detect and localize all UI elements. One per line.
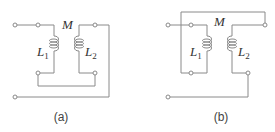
diagram-b: M L1 L2 (b)	[166, 12, 267, 124]
terminal-b-4	[189, 71, 193, 75]
terminal-b-2	[189, 23, 193, 27]
wire-b-l1-top	[170, 25, 207, 36]
terminal-a-5	[93, 71, 97, 75]
caption-a: (a)	[54, 110, 69, 124]
terminal-a-1	[13, 23, 17, 27]
wire-b-left-vertical	[181, 25, 189, 73]
l1-label-b: L1	[189, 44, 202, 61]
terminal-b-1	[166, 23, 170, 27]
terminal-b-5	[246, 71, 250, 75]
wire-b-bottom	[170, 75, 248, 97]
diagram-a: M L1 L2 (a)	[13, 17, 109, 124]
mutual-label-a: M	[61, 17, 74, 32]
circuit-canvas: M L1 L2 (a) M L1 L2 (b)	[0, 0, 275, 132]
mutual-label-b: M	[213, 14, 226, 29]
l1-label-a: L1	[36, 44, 49, 61]
l2-label-a: L2	[84, 44, 97, 61]
caption-b: (b)	[214, 110, 229, 124]
wire-a-bottom-loop	[38, 75, 95, 86]
terminal-a-6	[13, 95, 17, 99]
terminal-a-2	[36, 23, 40, 27]
terminal-b-3	[263, 23, 267, 27]
terminal-a-3	[93, 23, 97, 27]
l2-label-b: L2	[237, 44, 250, 61]
wire-a-l1-top	[17, 25, 54, 36]
terminal-b-6	[166, 95, 170, 99]
terminal-a-4	[36, 71, 40, 75]
